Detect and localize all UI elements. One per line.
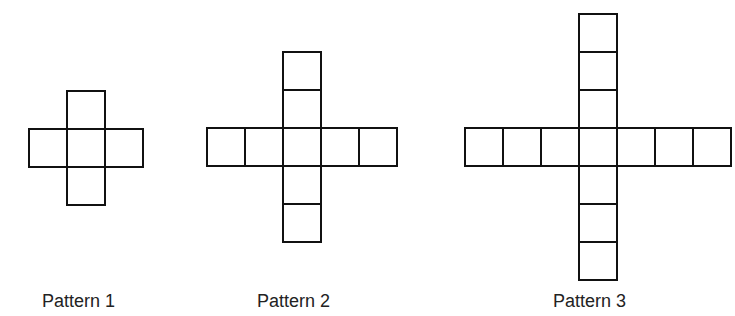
square-cell	[207, 128, 245, 166]
square-cell	[541, 128, 579, 166]
square-cell	[283, 52, 321, 90]
square-cell	[359, 128, 397, 166]
square-cell	[579, 204, 617, 242]
square-cell	[579, 166, 617, 204]
pattern-3-label: Pattern 3	[553, 292, 626, 310]
pattern-1-shape	[29, 91, 143, 205]
square-cell	[465, 128, 503, 166]
square-cell	[579, 128, 617, 166]
square-cell	[579, 52, 617, 90]
square-cell	[503, 128, 541, 166]
square-cell	[283, 204, 321, 242]
pattern-2-shape	[207, 52, 397, 242]
pattern-figure	[0, 0, 735, 316]
square-cell	[67, 129, 105, 167]
square-cell	[245, 128, 283, 166]
square-cell	[105, 129, 143, 167]
pattern-1-label: Pattern 1	[42, 292, 115, 310]
square-cell	[579, 14, 617, 52]
square-cell	[283, 90, 321, 128]
square-cell	[617, 128, 655, 166]
square-cell	[321, 128, 359, 166]
pattern-2-label: Pattern 2	[257, 292, 330, 310]
square-cell	[283, 128, 321, 166]
square-cell	[283, 166, 321, 204]
square-cell	[579, 242, 617, 280]
square-cell	[67, 167, 105, 205]
square-cell	[693, 128, 731, 166]
square-cell	[29, 129, 67, 167]
pattern-3-shape	[465, 14, 731, 280]
square-cell	[655, 128, 693, 166]
square-cell	[579, 90, 617, 128]
square-cell	[67, 91, 105, 129]
